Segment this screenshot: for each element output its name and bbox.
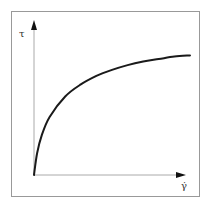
y-axis-label: τ	[19, 29, 25, 39]
y-axis-arrow-icon	[31, 20, 37, 30]
diagram-frame	[12, 12, 200, 197]
x-axis-label: γ̇	[181, 181, 187, 191]
flow-curve-diagram: τ γ̇	[0, 0, 220, 209]
x-axis-arrow-icon	[176, 172, 186, 178]
shear-stress-curve	[34, 55, 190, 175]
